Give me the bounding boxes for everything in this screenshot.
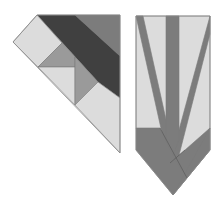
right-block <box>136 16 210 195</box>
left-block <box>13 15 120 153</box>
diagram-canvas <box>0 0 223 202</box>
center-vertical-strip <box>166 16 179 158</box>
light-triangle-middle <box>38 67 75 105</box>
